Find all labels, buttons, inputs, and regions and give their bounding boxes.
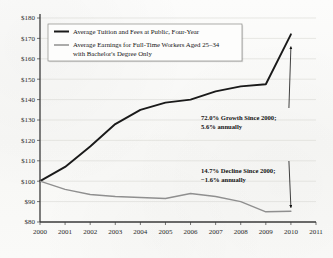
x-tick-label: 2001 [58, 228, 73, 236]
x-tick-label: 2004 [133, 228, 148, 236]
x-tick-label: 2002 [83, 228, 98, 236]
legend-label-0: Average Tuition and Fees at Public, Four… [73, 28, 200, 35]
x-tick-label: 2000 [33, 228, 48, 236]
decline-callout-line1: 14.7% Decline Since 2000; [201, 167, 275, 174]
x-axis-ticks: 2000200120022003200420052006200720082009… [33, 222, 323, 236]
y-tick-label: $170 [21, 35, 36, 43]
y-tick-label: $130 [21, 116, 36, 124]
x-tick-label: 2005 [158, 228, 173, 236]
y-tick-label: $140 [21, 96, 36, 104]
y-tick-label: $100 [21, 178, 36, 186]
x-tick-label: 2003 [108, 228, 123, 236]
growth-callout-line2: 5.6% annually [201, 123, 243, 130]
legend-label-1-line2: with Bachelor's Degree Only [73, 50, 152, 57]
line-chart: $80$90$100$110$120$130$140$150$160$170$1… [0, 0, 333, 258]
y-tick-label: $80 [25, 218, 36, 226]
y-tick-label: $120 [21, 137, 36, 145]
y-tick-label: $150 [21, 76, 36, 84]
x-tick-label: 2008 [234, 228, 249, 236]
y-tick-label: $90 [25, 198, 36, 206]
x-tick-label: 2011 [309, 228, 323, 236]
x-tick-label: 2007 [209, 228, 224, 236]
decline-callout-arrow [289, 161, 291, 208]
y-tick-label: $160 [21, 55, 36, 63]
decline-callout-line2: −1.6% annually [201, 176, 247, 183]
chart-page: $80$90$100$110$120$130$140$150$160$170$1… [0, 0, 333, 258]
x-tick-label: 2010 [284, 228, 299, 236]
x-tick-label: 2009 [259, 228, 274, 236]
x-tick-label: 2006 [184, 228, 199, 236]
y-tick-label: $110 [21, 157, 35, 165]
earnings-line [40, 181, 291, 212]
y-axis-ticks: $80$90$100$110$120$130$140$150$160$170$1… [21, 14, 40, 226]
growth-callout-arrow [289, 47, 291, 108]
legend-label-1: Average Earnings for Full-Time Workers A… [73, 41, 220, 48]
growth-callout-line1: 72.0% Growth Since 2000; [201, 114, 276, 121]
annotations: 72.0% Growth Since 2000;5.6% annually14.… [201, 47, 291, 208]
y-tick-label: $180 [21, 14, 36, 22]
chart-legend: Average Tuition and Fees at Public, Four… [48, 24, 243, 62]
